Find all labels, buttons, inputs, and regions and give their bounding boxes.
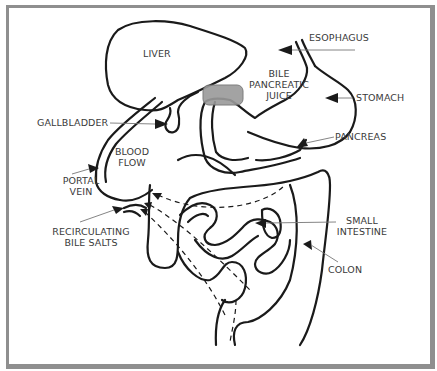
label-colon: COLON <box>328 264 362 275</box>
label-stomach: STOMACH <box>356 92 404 103</box>
label-liver: LIVER <box>143 48 171 59</box>
leader-pancreas <box>306 137 334 143</box>
label-pancreatic: PANCREATIC <box>244 79 314 90</box>
label-intestine: INTESTINE <box>335 226 389 237</box>
duodenum-outline <box>200 102 300 173</box>
blood-flow-branch <box>120 190 152 201</box>
label-flow: FLOW <box>112 157 152 168</box>
label-recirculating: RECIRCULATING <box>50 226 132 237</box>
leader-small-intestine <box>266 222 336 223</box>
arrow-recirc-3 <box>140 209 148 216</box>
label-blood-flow: BLOOD FLOW <box>112 146 152 168</box>
label-small-intestine: SMALL INTESTINE <box>335 215 389 237</box>
label-small: SMALL <box>335 215 389 226</box>
label-portal: PORTAL <box>58 175 104 186</box>
label-pancreas: PANCREAS <box>335 131 386 142</box>
label-juice: JUICE <box>244 90 314 101</box>
label-gallbladder: GALLBLADDER <box>37 117 108 128</box>
arrow-esophagus <box>278 45 292 55</box>
bile-entry-highlight <box>203 85 243 105</box>
colon-outline <box>148 171 330 345</box>
leader-gallbladder <box>110 123 155 124</box>
small-intestine-coil <box>188 214 258 259</box>
leader-portal-vein <box>72 169 89 174</box>
label-portal-vein: PORTAL VEIN <box>58 175 104 197</box>
blood-flow-branch <box>124 211 140 216</box>
arrow-colon <box>303 240 312 250</box>
arrow-stomach <box>325 93 338 103</box>
label-esophagus: ESOPHAGUS <box>309 32 369 43</box>
blood-flow-branch <box>124 205 146 208</box>
small-intestine-coil <box>178 252 246 302</box>
leader-recirculating <box>80 210 114 222</box>
label-bile-salts: BILE SALTS <box>50 237 132 248</box>
label-bile-pancreatic-juice: BILE PANCREATIC JUICE <box>244 68 314 101</box>
duodenum-inner <box>212 102 248 160</box>
label-bile: BILE <box>244 68 314 79</box>
label-blood: BLOOD <box>112 146 152 157</box>
label-vein: VEIN <box>58 186 104 197</box>
label-recirculating-bile-salts: RECIRCULATING BILE SALTS <box>50 226 132 248</box>
